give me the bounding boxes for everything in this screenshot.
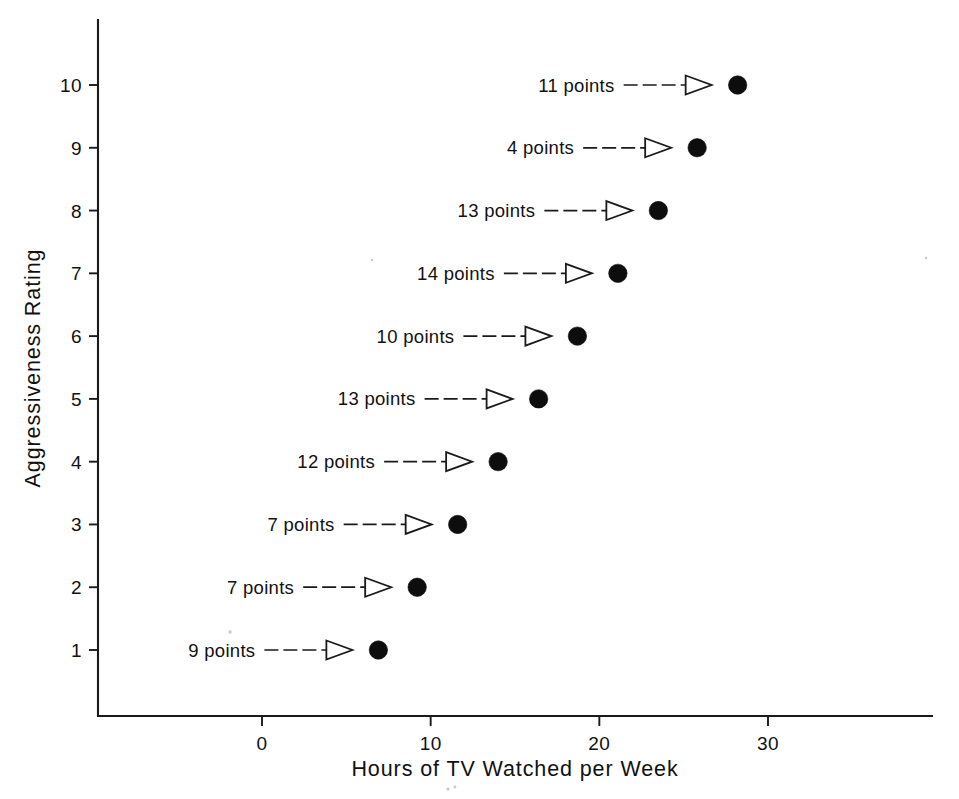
data-point-marker [568,327,586,345]
data-point-marker [728,76,746,94]
annotation-arrow-head-icon [487,389,513,408]
annotation-arrow-head-icon [525,327,551,346]
annotation-label: 14 points [417,263,495,284]
annotation-arrow-head-icon [365,578,391,597]
y-tick-label: 8 [71,201,82,222]
annotation-arrow-head-icon [645,138,671,157]
x-tick-label: 10 [420,733,442,754]
y-tick-label: 4 [71,452,82,473]
x-tick-label: 0 [257,733,268,754]
annotation-arrow-head-icon [406,515,432,534]
y-axis-title: Aggressiveness Rating [21,249,45,488]
scan-speck [454,786,457,789]
annotation-label: 7 points [227,577,294,598]
annotation-arrow-head-icon [566,264,592,283]
scan-speck [371,259,374,262]
annotation-label: 10 points [377,326,455,347]
y-tick-label: 3 [71,514,82,535]
annotation-label: 11 points [538,75,614,96]
data-point-marker [408,578,426,596]
x-tick-label: 20 [588,733,610,754]
y-tick-label: 5 [71,389,82,410]
x-axis-ticks: 0102030 [257,716,779,754]
y-tick-label: 7 [71,263,82,284]
data-point-marker [529,390,547,408]
scan-speck [446,787,449,790]
data-point-marker [369,641,387,659]
data-point-marker [489,452,507,470]
annotation-label: 13 points [338,388,416,409]
scan-speck [925,257,927,259]
data-point-marker [649,201,667,219]
annotation-arrow-head-icon [686,76,712,95]
x-tick-label: 30 [757,733,779,754]
y-tick-label: 6 [71,326,82,347]
data-markers-group [369,76,747,659]
y-axis-ticks: 10987654321 [60,75,98,661]
data-point-marker [448,515,466,533]
y-tick-label: 2 [71,577,82,598]
annotation-label: 12 points [297,451,375,472]
axes-group [98,20,932,716]
data-point-marker [688,139,706,157]
y-tick-label: 9 [71,138,82,159]
annotation-label: 13 points [458,200,536,221]
data-point-marker [609,264,627,282]
annotation-group: 9 points7 points7 points12 points13 poin… [188,75,711,661]
scatter-plot: 10987654321 0102030 9 points7 points7 po… [0,0,959,799]
y-tick-label: 10 [60,75,82,96]
annotation-label: 9 points [188,640,255,661]
scan-speck [228,630,231,633]
annotation-arrow-head-icon [326,641,352,660]
annotation-label: 7 points [267,514,334,535]
annotation-label: 4 points [507,137,574,158]
y-tick-label: 1 [71,640,82,661]
x-axis-title: Hours of TV Watched per Week [351,757,678,781]
chart-figure: 10987654321 0102030 9 points7 points7 po… [0,0,959,799]
annotation-arrow-head-icon [446,452,472,471]
annotation-arrow-head-icon [606,201,632,220]
